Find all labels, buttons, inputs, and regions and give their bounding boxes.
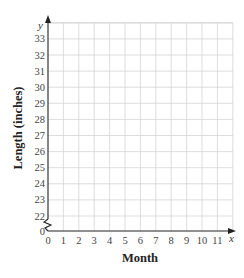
y-tick-label: 30 [35, 82, 46, 93]
x-tick-label: 0 [45, 235, 50, 246]
y-axis-variable: y [37, 19, 43, 31]
x-axis-variable: x [228, 232, 234, 244]
coordinate-grid-chart: 01234567891011 0222324252627282930313233… [0, 0, 244, 278]
y-tick-label: 23 [35, 194, 46, 205]
y-tick-label: 27 [35, 130, 46, 141]
y-axis-label: Length (inches) [11, 87, 25, 170]
x-tick-labels: 01234567891011 [45, 235, 222, 246]
y-tick-label: 25 [35, 162, 46, 173]
y-tick-label: 32 [35, 50, 46, 61]
x-tick-label: 1 [61, 235, 66, 246]
x-tick-label: 8 [169, 235, 174, 246]
x-tick-label: 10 [197, 235, 208, 246]
x-tick-label: 6 [138, 235, 143, 246]
x-tick-label: 11 [212, 235, 222, 246]
y-tick-label: 0 [40, 226, 45, 237]
y-tick-label: 24 [35, 178, 46, 189]
y-tick-label: 33 [35, 33, 46, 44]
x-tick-label: 2 [76, 235, 81, 246]
x-tick-label: 9 [184, 235, 189, 246]
x-tick-label: 4 [107, 235, 113, 246]
y-tick-label: 29 [35, 98, 46, 109]
y-tick-label: 22 [35, 211, 46, 222]
grid-lines [48, 23, 233, 231]
y-tick-label: 26 [35, 146, 46, 157]
y-tick-label: 28 [35, 114, 46, 125]
y-tick-label: 31 [35, 66, 46, 77]
x-axis-label: Month [122, 251, 158, 265]
y-tick-labels: 0222324252627282930313233 [35, 33, 46, 236]
x-tick-label: 3 [92, 235, 97, 246]
x-tick-label: 7 [153, 235, 158, 246]
x-tick-label: 5 [122, 235, 127, 246]
